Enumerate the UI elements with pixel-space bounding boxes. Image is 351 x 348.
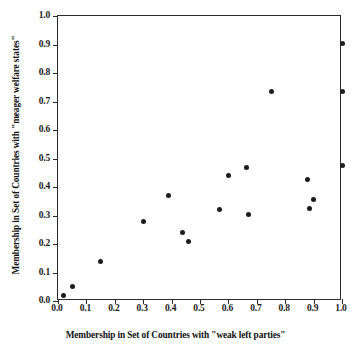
x-axis-tick-label: 0.6	[222, 303, 233, 313]
y-axis-tick	[53, 130, 58, 131]
x-axis-tick-label: 0.1	[80, 303, 91, 313]
y-axis-tick-label: 0.3	[39, 210, 50, 220]
data-point	[305, 177, 310, 182]
data-point	[340, 163, 345, 168]
x-axis-tick-label: 0.5	[193, 303, 204, 313]
scatter-plot-figure: Membership in Set of Countries with "wea…	[0, 0, 351, 348]
x-axis-tick-label: 0.7	[250, 303, 261, 313]
data-point	[269, 89, 274, 94]
data-point	[217, 207, 222, 212]
data-point	[98, 259, 103, 264]
y-axis-tick-label: 0.4	[39, 181, 50, 191]
x-axis-tick-label: 0.4	[165, 303, 176, 313]
y-axis-tick	[53, 73, 58, 74]
y-axis-tick	[53, 301, 58, 302]
plot-frame	[57, 15, 341, 300]
x-axis-title: Membership in Set of Countries with "wea…	[0, 330, 351, 340]
data-point	[180, 230, 185, 235]
y-axis-tick-label: 0.8	[39, 67, 50, 77]
x-axis-tick-label: 0.3	[137, 303, 148, 313]
data-point	[246, 212, 251, 217]
plot-area	[58, 16, 340, 299]
data-point	[244, 165, 249, 170]
y-axis-tick-label: 0.1	[39, 267, 50, 277]
y-axis-tick	[53, 187, 58, 188]
data-point	[166, 193, 171, 198]
x-axis-tick-label: 0.2	[108, 303, 119, 313]
data-point	[226, 173, 231, 178]
y-axis-tick	[53, 102, 58, 103]
y-axis-tick	[53, 45, 58, 46]
y-axis-tick-label: 0.2	[39, 238, 50, 248]
y-axis-tick-label: 0.0	[39, 295, 50, 305]
x-axis-tick-label: 0.8	[279, 303, 290, 313]
data-point	[61, 293, 66, 298]
y-axis-tick-label: 0.7	[39, 96, 50, 106]
y-axis-tick	[53, 159, 58, 160]
y-axis-tick-label: 0.5	[39, 153, 50, 163]
y-axis-tick	[53, 16, 58, 17]
x-axis-tick-label: 0.9	[307, 303, 318, 313]
data-point	[70, 284, 75, 289]
y-axis-tick	[53, 244, 58, 245]
data-point	[340, 89, 345, 94]
data-point	[186, 239, 191, 244]
y-axis-tick-label: 0.9	[39, 39, 50, 49]
data-point	[311, 197, 316, 202]
x-axis-tick-label: 1.0	[335, 303, 346, 313]
y-axis-title: Membership in Set of Countries with "mea…	[11, 5, 21, 305]
y-axis-tick-label: 0.6	[39, 124, 50, 134]
x-axis-tick-label: 0.0	[51, 303, 62, 313]
data-point	[340, 41, 345, 46]
y-axis-tick	[53, 216, 58, 217]
data-point	[141, 219, 146, 224]
y-axis-tick	[53, 273, 58, 274]
data-point	[307, 206, 312, 211]
y-axis-tick-label: 1.0	[39, 10, 50, 20]
